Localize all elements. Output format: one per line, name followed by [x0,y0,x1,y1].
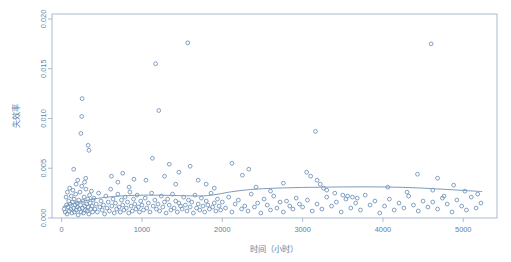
data-point [314,130,318,134]
data-point [84,176,88,180]
data-point [111,197,115,201]
y-axis-tick-labels: 0.0000.0050.0100.0150.020 [39,10,48,228]
data-point [140,203,144,207]
data-point [262,197,266,201]
data-point [79,210,83,214]
data-point [106,200,110,204]
data-point [354,201,358,205]
data-point [318,182,322,186]
data-point [158,209,162,213]
data-point [281,181,285,185]
data-point [116,180,120,184]
data-point [309,174,313,178]
data-point [183,203,187,207]
x-tick-label: 1000 [134,225,150,234]
data-point [89,189,93,193]
data-point [99,199,103,203]
data-point [310,209,314,213]
data-point [288,204,292,208]
data-point [132,197,136,201]
data-point [249,192,253,196]
data-point [203,210,207,214]
data-point [341,193,345,197]
data-point [100,208,104,212]
data-point [97,191,101,195]
data-point [121,171,125,175]
data-point [220,200,224,204]
data-point [138,210,142,214]
data-point [157,109,161,113]
data-point [412,203,416,207]
data-point [392,208,396,212]
data-point [116,192,120,196]
data-point [349,206,353,210]
x-tick-label: 4000 [375,225,391,234]
data-point [84,187,88,191]
data-point [230,161,234,165]
x-tick-label: 3000 [294,225,310,234]
data-point [148,210,152,214]
data-point [339,210,343,214]
y-tick-label: 0.000 [39,209,48,228]
data-point [167,203,171,207]
data-point [212,201,216,205]
data-point [265,203,269,207]
data-point [330,204,334,208]
data-point [368,203,372,207]
data-point [416,172,420,176]
data-point [132,177,136,181]
data-point [219,208,223,212]
data-point [320,207,324,211]
data-point [77,198,81,202]
y-tick-label: 0.020 [39,10,48,29]
data-point [416,209,420,213]
data-point [383,204,387,208]
data-point [80,184,84,188]
data-point [128,190,132,194]
data-point [64,195,68,199]
data-point [88,193,92,197]
data-point [217,204,221,208]
data-point [285,199,289,203]
data-point [294,196,298,200]
data-point [94,202,98,206]
data-point [108,209,112,213]
y-axis-title: 失效率 [11,104,21,128]
x-axis-tick-labels: 010002000300040005000 [60,225,472,234]
data-point [431,200,435,204]
data-point [359,208,363,212]
data-point [259,211,263,215]
data-point [224,206,228,210]
data-point [351,195,355,199]
x-axis-tick-marks [62,218,464,222]
data-point [121,203,125,207]
data-point [333,191,337,195]
scatter-plot-svg: 010002000300040005000 0.0000.0050.0100.0… [0,0,511,262]
data-point [246,209,250,213]
data-point [436,176,440,180]
x-axis-title: 时间（小时） [250,244,298,254]
data-point [227,195,231,199]
data-point [325,195,329,199]
data-point [72,167,76,171]
data-point [110,204,114,208]
data-point [188,205,192,209]
data-point [153,198,157,202]
data-point [196,202,200,206]
data-point [240,207,244,211]
data-points-layer [62,41,483,217]
data-point [452,183,456,187]
data-point [145,206,149,210]
data-point [206,203,210,207]
data-point [212,186,216,190]
data-point [465,208,469,212]
data-point [190,200,194,204]
data-point [175,210,179,214]
data-point [154,62,158,66]
data-point [445,202,449,206]
data-point [247,167,251,171]
data-point [164,211,168,215]
data-point [83,180,87,184]
data-point [436,207,440,211]
data-point [387,197,391,201]
